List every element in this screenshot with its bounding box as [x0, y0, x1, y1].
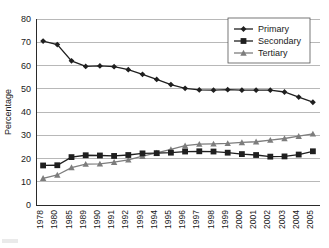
y-axis-tick-label: 20 — [21, 154, 31, 164]
data-point-marker — [241, 38, 247, 44]
scan-artifact — [2, 239, 18, 243]
y-axis-tick-label: 0 — [26, 200, 31, 210]
data-point-marker — [225, 150, 231, 156]
line-chart: 01020304050607080Percentage1978198019851… — [0, 0, 329, 248]
data-point-marker — [267, 154, 273, 160]
data-point-marker — [211, 149, 217, 155]
x-axis-tick-label: 1978 — [35, 210, 45, 229]
data-point-marker — [54, 162, 60, 168]
x-axis-tick-label: 1994 — [149, 210, 159, 229]
legend-label: Secondary — [258, 36, 302, 46]
data-point-marker — [154, 150, 160, 156]
x-axis-tick-label: 2001 — [248, 210, 258, 229]
chart-container: 01020304050607080Percentage1978198019851… — [0, 0, 329, 248]
x-axis-tick-label: 1996 — [177, 210, 187, 229]
data-point-marker — [196, 148, 202, 154]
y-axis-title: Percentage — [3, 89, 13, 135]
data-point-marker — [282, 154, 288, 160]
x-axis-tick-label: 1985 — [64, 210, 74, 229]
data-point-marker — [97, 153, 103, 159]
x-axis-tick-label: 2002 — [262, 210, 272, 229]
data-point-marker — [182, 149, 188, 155]
x-axis-tick-label: 1992 — [120, 210, 130, 229]
y-axis-tick-label: 60 — [21, 61, 31, 71]
x-axis-tick-label: 1993 — [135, 210, 145, 229]
x-axis-tick-label: 1997 — [191, 210, 201, 229]
y-axis-tick-label: 40 — [21, 107, 31, 117]
data-point-marker — [111, 153, 117, 159]
y-axis-tick-label: 30 — [21, 130, 31, 140]
data-point-marker — [296, 152, 302, 158]
x-axis-tick-label: 1998 — [206, 210, 216, 229]
y-axis-tick-label: 80 — [21, 14, 31, 24]
data-point-marker — [239, 151, 245, 157]
legend: PrimarySecondaryTertiary — [228, 18, 310, 63]
x-axis-tick-label: 2003 — [277, 210, 287, 229]
x-axis-tick-label: 1995 — [163, 210, 173, 229]
data-point-marker — [125, 152, 131, 158]
data-point-marker — [69, 154, 75, 160]
legend-label: Tertiary — [258, 48, 288, 58]
data-point-marker — [83, 152, 89, 158]
data-point-marker — [253, 152, 259, 158]
y-axis-tick-label: 10 — [21, 177, 31, 187]
legend-label: Primary — [258, 24, 289, 34]
data-point-marker — [310, 148, 316, 154]
x-axis-tick-label: 1980 — [49, 210, 59, 229]
x-axis-tick-label: 2000 — [234, 210, 244, 229]
x-axis-tick-label: 1999 — [220, 210, 230, 229]
x-axis-tick-label: 1989 — [78, 210, 88, 229]
data-point-marker — [40, 163, 46, 169]
data-point-marker — [140, 150, 146, 156]
x-axis-tick-label: 1991 — [106, 210, 116, 229]
x-axis-tick-label: 1990 — [92, 210, 102, 229]
x-axis-tick-label: 2005 — [305, 210, 315, 229]
y-axis-tick-label: 50 — [21, 84, 31, 94]
data-point-marker — [168, 150, 174, 156]
y-axis-tick-label: 70 — [21, 37, 31, 47]
x-axis-tick-label: 2004 — [291, 210, 301, 229]
